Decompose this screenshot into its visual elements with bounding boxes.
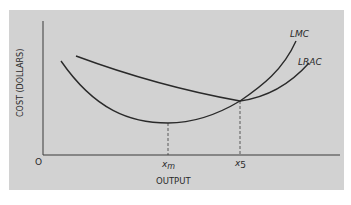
lmc-curve [61,41,296,123]
lmc-label: LMC [290,29,310,39]
origin-label: O [35,157,42,167]
x5-tick-label: x5 [234,158,246,170]
y-axis-title: COST (DOLLARS) [16,49,25,117]
cost-curves-diagram: LMC LRAC O xm x5 OUTPUT COST (DOLLARS) [0,0,351,205]
xm-sub: m [167,162,175,171]
xm-tick-label: xm [161,159,175,171]
x-axis-title: OUTPUT [156,176,191,186]
lrac-curve [76,56,309,101]
lrac-label: LRAC [298,57,322,67]
x5-sub: 5 [240,160,246,170]
